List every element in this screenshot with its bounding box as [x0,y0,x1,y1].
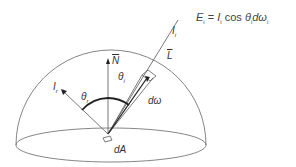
cone-edge [108,78,153,134]
eq-cos: cos [225,11,242,23]
reflected-intensity-label: Ir [53,82,58,94]
area-element-label: dA [114,145,126,155]
light-vector-label: L [167,51,173,61]
normal-arrowhead [106,58,110,64]
eq-equals: = [208,11,214,23]
eq-intensity-sub: i [220,19,221,25]
solid-angle-label: dω [148,96,161,106]
irradiance-equation: Ei = Ii cos θidωi [196,11,268,25]
cone-edge [108,75,142,134]
hemisphere-base [16,128,206,162]
cone-bold [108,78,147,134]
theta-i-arc [108,98,129,105]
theta-r-label: θr [81,92,88,104]
theta-i-label: θi [118,72,125,84]
incident-intensity-label: Ii [172,26,176,38]
normal-vector-label: N [112,56,119,66]
area-element [103,136,112,142]
eq-domega-sub: i [267,19,268,25]
eq-lhs-sub: i [203,19,204,25]
eq-domega: dω [252,11,267,23]
